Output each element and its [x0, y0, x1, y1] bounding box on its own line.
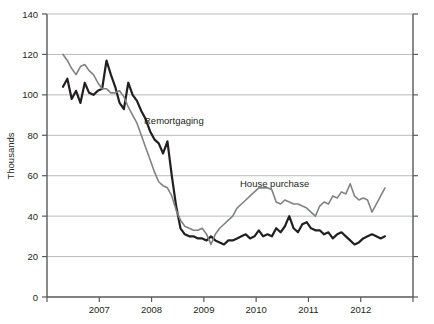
series-label-house-purchase: House purchase: [240, 178, 309, 189]
y-tick-label: 20: [27, 251, 38, 262]
x-tick-label: 2010: [246, 304, 267, 315]
y-tick-label: 80: [27, 130, 38, 141]
y-tick-label: 100: [22, 89, 38, 100]
y-axis-title: Thousands: [5, 132, 16, 179]
y-tick-label: 0: [33, 292, 38, 303]
y-tick-label: 140: [22, 9, 38, 20]
x-tick-label: 2011: [298, 304, 318, 315]
y-tick-label: 60: [27, 170, 38, 181]
mortgage-approvals-chart: 020406080100120140 200720082009201020112…: [0, 0, 434, 324]
y-tick-label: 40: [27, 211, 38, 222]
x-tick-label: 2008: [141, 304, 162, 315]
series-label-remortgaging: Remortgaging: [144, 115, 204, 126]
x-tick-label: 2009: [193, 304, 214, 315]
x-tick-label: 2012: [350, 304, 371, 315]
y-tick-label: 120: [22, 49, 38, 60]
chart-background: [0, 0, 434, 324]
chart-canvas: 020406080100120140 200720082009201020112…: [0, 0, 434, 324]
x-tick-label: 2007: [89, 304, 110, 315]
